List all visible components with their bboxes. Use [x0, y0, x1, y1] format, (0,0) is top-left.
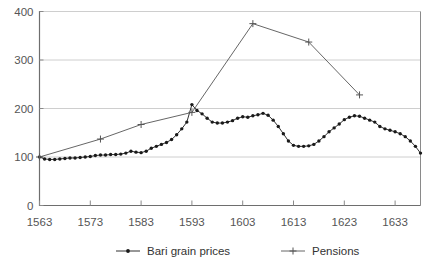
data-point — [398, 132, 401, 135]
chart-legend: Bari grain pricesPensions — [116, 245, 360, 257]
y-tick-label: 200 — [14, 103, 33, 115]
data-point — [114, 153, 117, 156]
data-point — [139, 151, 142, 154]
data-point — [343, 118, 346, 121]
data-point — [43, 157, 46, 160]
data-point — [216, 121, 219, 124]
data-point — [205, 117, 208, 120]
x-tick-label: 1603 — [230, 216, 256, 228]
data-point — [94, 154, 97, 157]
data-point — [368, 118, 371, 121]
legend-item[interactable]: Bari grain prices — [116, 245, 230, 257]
data-point — [236, 117, 239, 120]
data-point — [363, 117, 366, 120]
series-bari-grain-prices — [38, 103, 422, 161]
data-point — [185, 120, 188, 123]
y-axis-tick-labels: 0100200300400 — [14, 6, 33, 212]
data-point — [277, 125, 280, 128]
x-tick-label: 1613 — [281, 216, 307, 228]
series-pensions — [36, 20, 363, 160]
data-point — [256, 113, 259, 116]
line-chart: 0100200300400 15631573158315931603161316… — [0, 0, 427, 264]
data-point — [373, 120, 376, 123]
data-point — [134, 150, 137, 153]
data-point — [89, 155, 92, 158]
chart-container: 0100200300400 15631573158315931603161316… — [0, 0, 427, 264]
data-point — [68, 156, 71, 159]
data-point — [388, 129, 391, 132]
data-point — [119, 152, 122, 155]
legend-marker-dot — [126, 249, 130, 253]
x-tick-label: 1563 — [27, 216, 53, 228]
data-point — [404, 135, 407, 138]
series-line — [40, 105, 421, 160]
data-point — [282, 132, 285, 135]
data-point — [109, 153, 112, 156]
data-point — [155, 145, 158, 148]
y-tick-label: 100 — [14, 151, 33, 163]
data-point — [393, 130, 396, 133]
data-point — [200, 112, 203, 115]
data-point — [322, 135, 325, 138]
data-point — [251, 114, 254, 117]
series-line — [40, 24, 360, 157]
data-point — [175, 133, 178, 136]
data-point — [297, 145, 300, 148]
data-point — [58, 157, 61, 160]
legend-label: Bari grain prices — [147, 245, 230, 257]
legend-label: Pensions — [312, 245, 360, 257]
data-point — [180, 127, 183, 130]
data-point — [73, 156, 76, 159]
data-point — [378, 125, 381, 128]
data-point — [312, 143, 315, 146]
data-point — [292, 144, 295, 147]
data-point — [190, 103, 193, 106]
data-point — [317, 139, 320, 142]
data-point — [104, 153, 107, 156]
data-point — [353, 114, 356, 117]
data-point — [419, 151, 422, 154]
data-point — [211, 120, 214, 123]
data-point — [266, 114, 269, 117]
data-point — [63, 157, 66, 160]
x-axis-tick-labels: 15631573158315931603161316231633 — [27, 216, 408, 228]
data-point — [338, 122, 341, 125]
data-point — [165, 141, 168, 144]
gridlines — [40, 12, 421, 206]
data-point — [414, 145, 417, 148]
x-tick-label: 1633 — [382, 216, 408, 228]
data-point — [332, 126, 335, 129]
data-point — [99, 153, 102, 156]
data-point — [302, 145, 305, 148]
data-point — [221, 121, 224, 124]
data-point — [348, 116, 351, 119]
series-layer — [36, 20, 422, 161]
data-point — [383, 127, 386, 130]
y-tick-label: 0 — [27, 200, 33, 212]
data-point — [150, 147, 153, 150]
legend-item[interactable]: Pensions — [281, 245, 360, 257]
data-point — [241, 115, 244, 118]
x-tick-label: 1583 — [128, 216, 154, 228]
data-point — [287, 139, 290, 142]
data-point — [271, 118, 274, 121]
data-point — [409, 139, 412, 142]
data-point — [144, 149, 147, 152]
y-tick-label: 300 — [14, 54, 33, 66]
data-point — [160, 143, 163, 146]
x-tick-label: 1623 — [332, 216, 358, 228]
data-point — [261, 112, 264, 115]
data-point — [170, 138, 173, 141]
data-point — [195, 109, 198, 112]
y-tick-label: 400 — [14, 6, 33, 18]
x-tick-label: 1573 — [78, 216, 104, 228]
x-tick-label: 1593 — [179, 216, 205, 228]
data-point — [53, 158, 56, 161]
data-point — [129, 149, 132, 152]
data-point — [231, 119, 234, 122]
data-point — [48, 158, 51, 161]
data-point — [358, 115, 361, 118]
data-point — [84, 155, 87, 158]
data-point — [226, 120, 229, 123]
data-point — [246, 116, 249, 119]
